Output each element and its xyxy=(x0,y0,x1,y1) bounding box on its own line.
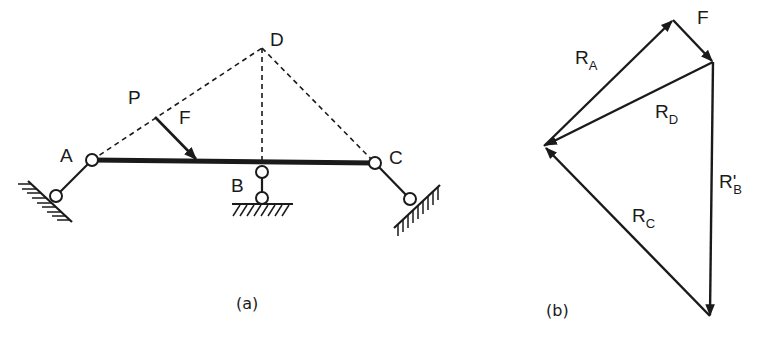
label-f-vector: F xyxy=(697,7,709,28)
hinge-b-top xyxy=(256,166,268,178)
ground-c xyxy=(394,185,440,228)
label-p: P xyxy=(128,87,141,108)
label-rc: RC xyxy=(632,205,655,231)
diagram-canvas: A B C D P F (a) RA F RD R'B RC (b) xyxy=(0,0,773,340)
support-c xyxy=(369,157,440,236)
label-rd: RD xyxy=(655,101,678,127)
label-rb: R'B xyxy=(719,171,742,197)
hinge-b-bottom xyxy=(256,192,268,204)
label-a: A xyxy=(60,145,73,166)
hinge-c-ground xyxy=(404,193,416,205)
label-c: C xyxy=(389,147,403,168)
label-b: B xyxy=(231,175,244,196)
dashed-line-a-d xyxy=(92,48,262,160)
hinge-a xyxy=(86,154,98,166)
label-d: D xyxy=(270,29,284,50)
label-ra: RA xyxy=(575,47,598,73)
figure-b xyxy=(544,20,713,316)
hatch-b xyxy=(233,205,289,216)
hinge-c xyxy=(369,157,381,169)
figure-a: A B C D P F (a) xyxy=(18,29,440,313)
link-c xyxy=(375,163,410,199)
support-a xyxy=(18,154,98,222)
vector-ra xyxy=(544,21,672,146)
vector-rb xyxy=(710,62,713,315)
beam xyxy=(92,160,375,163)
vector-rc xyxy=(546,148,710,316)
caption-b: (b) xyxy=(546,301,569,320)
dashed-line-d-c xyxy=(262,48,375,163)
label-f: F xyxy=(179,107,191,128)
hinge-a-ground xyxy=(50,190,62,202)
caption-a: (a) xyxy=(236,294,258,313)
vector-rd xyxy=(546,62,713,145)
